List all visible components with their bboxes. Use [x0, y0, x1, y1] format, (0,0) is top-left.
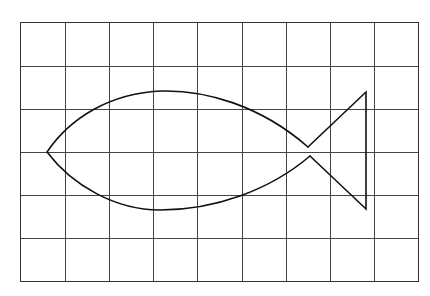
- grid-diagram: [0, 0, 430, 296]
